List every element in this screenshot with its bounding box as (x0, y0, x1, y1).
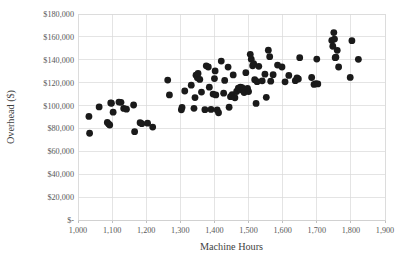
data-point (232, 94, 239, 101)
data-point (270, 71, 277, 78)
data-point (130, 102, 137, 109)
data-point (308, 74, 315, 81)
data-point (267, 78, 274, 85)
y-axis-title: Overhead ($) (5, 90, 17, 144)
y-axis-tick-label: $60,000 (47, 147, 74, 156)
data-point (123, 106, 130, 113)
data-point (253, 100, 260, 107)
data-point (201, 106, 208, 113)
data-point (279, 64, 286, 71)
y-axis-tick-label: $20,000 (47, 193, 74, 202)
data-point (242, 69, 249, 76)
data-point (335, 64, 342, 71)
data-point (110, 109, 117, 116)
y-axis-tick-label: $- (67, 216, 74, 225)
scatter-chart: $-$20,000$40,000$60,000$80,000$100,000$1… (0, 0, 415, 256)
data-point (355, 56, 362, 63)
data-point (195, 70, 202, 77)
data-point (349, 37, 356, 44)
data-point (347, 74, 354, 81)
data-point (255, 63, 262, 70)
data-point (192, 94, 199, 101)
data-point (226, 104, 233, 111)
y-axis-tick-label: $80,000 (47, 124, 74, 133)
data-point (265, 47, 272, 54)
data-point (96, 104, 103, 111)
x-axis-tick-labels: 1,0001,1001,2001,3001,4001,5001,6001,700… (69, 226, 394, 235)
data-point (212, 92, 219, 99)
data-point (330, 29, 337, 36)
data-point (262, 71, 269, 78)
y-axis-tick-label: $120,000 (43, 79, 74, 88)
data-point (218, 58, 225, 65)
data-point (332, 54, 339, 61)
data-point (164, 77, 171, 84)
data-point (230, 71, 237, 78)
x-axis-tick-label: 1,100 (103, 226, 121, 235)
data-point (331, 36, 338, 43)
data-point (215, 109, 222, 116)
data-point (138, 120, 145, 127)
x-axis-tick-label: 1,500 (239, 226, 257, 235)
y-axis-tick-label: $140,000 (43, 56, 74, 65)
data-point (86, 130, 93, 137)
data-point (206, 84, 213, 91)
data-point (166, 92, 173, 99)
x-axis-tick-label: 1,800 (342, 226, 360, 235)
x-axis-tick-label: 1,700 (308, 226, 326, 235)
y-axis-tick-label: $160,000 (43, 33, 74, 42)
data-point (208, 106, 215, 113)
data-point (295, 76, 302, 83)
data-point (181, 88, 188, 95)
y-axis-tick-labels: $-$20,000$40,000$60,000$80,000$100,000$1… (43, 10, 74, 225)
y-axis-tick-label: $100,000 (43, 102, 74, 111)
data-point (188, 82, 195, 89)
data-point (108, 100, 115, 107)
data-point (220, 90, 227, 97)
data-point (191, 105, 198, 112)
x-axis-tick-label: 1,600 (273, 226, 291, 235)
x-axis-tick-label: 1,200 (137, 226, 155, 235)
x-axis-title: Machine Hours (200, 241, 263, 252)
data-point (313, 56, 320, 63)
y-axis-tick-label: $40,000 (47, 170, 74, 179)
data-point (225, 64, 232, 71)
data-point (198, 89, 205, 96)
data-point (334, 47, 341, 54)
data-point (259, 77, 266, 84)
data-point (266, 53, 273, 60)
x-axis-tick-label: 1,400 (205, 226, 223, 235)
data-point (106, 122, 113, 129)
data-point (131, 128, 138, 135)
chart-canvas: $-$20,000$40,000$60,000$80,000$100,000$1… (0, 0, 415, 256)
data-point (205, 64, 212, 71)
x-axis-tick-label: 1,900 (376, 226, 394, 235)
data-point (245, 88, 252, 95)
data-point (149, 124, 156, 131)
data-point (86, 113, 93, 120)
plot-area-border (78, 14, 385, 220)
tick-marks-group (78, 220, 385, 223)
data-point (296, 54, 303, 61)
x-axis-tick-label: 1,300 (171, 226, 189, 235)
data-point (212, 67, 219, 74)
data-point (282, 78, 289, 85)
x-axis-tick-label: 1,000 (69, 226, 87, 235)
data-point (285, 72, 292, 79)
data-point (211, 75, 218, 82)
gridlines-group (78, 14, 385, 220)
data-point (179, 104, 186, 111)
data-point (263, 94, 270, 101)
y-axis-tick-label: $180,000 (43, 10, 74, 19)
data-point (314, 81, 321, 88)
data-point (221, 77, 228, 84)
data-point (118, 99, 125, 106)
data-point (196, 76, 203, 83)
